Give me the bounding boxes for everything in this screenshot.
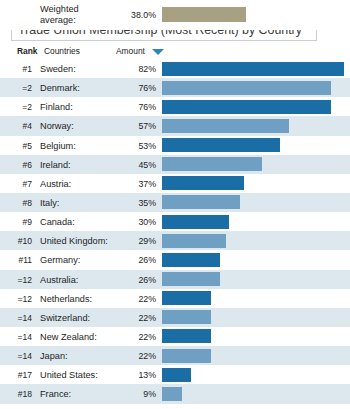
row-amount: 26% [108, 255, 156, 265]
table-row[interactable]: #17United States:13% [0, 365, 350, 384]
row-rank: =14 [6, 313, 32, 323]
table-row[interactable]: =14New Zealand:22% [0, 327, 350, 346]
data-table: #1Sweden:82%=2Denmark:76%=2Finland:76%#4… [0, 59, 350, 404]
row-bar [162, 100, 331, 114]
row-amount: 45% [108, 160, 156, 170]
row-bar [162, 195, 240, 209]
table-row[interactable]: =14Japan:22% [0, 346, 350, 365]
table-row[interactable]: =2Denmark:76% [0, 78, 350, 97]
row-rank: #10 [6, 236, 32, 246]
row-country: Denmark: [40, 83, 80, 93]
row-bar [162, 368, 191, 382]
row-rank: #18 [6, 389, 32, 399]
table-row[interactable]: #8Italy:35% [0, 193, 350, 212]
weighted-average-label-line2: average: [40, 15, 76, 25]
row-rank: #9 [6, 217, 32, 227]
row-rank: #8 [6, 198, 32, 208]
row-bar [162, 387, 182, 401]
row-country: Austria: [40, 179, 71, 189]
row-bar [162, 272, 220, 286]
table-row[interactable]: =2Finland:76% [0, 97, 350, 116]
row-country: Belgium: [40, 141, 76, 151]
column-header-row: Rank Countries Amount [0, 45, 350, 59]
row-amount: 22% [108, 294, 156, 304]
row-rank: =2 [6, 102, 32, 112]
row-bar [162, 310, 211, 324]
table-row[interactable]: #9Canada:30% [0, 212, 350, 231]
row-country: Switzerland: [40, 313, 90, 323]
row-bar [162, 329, 211, 343]
row-bar [162, 62, 344, 76]
row-amount: 37% [108, 179, 156, 189]
row-bar [162, 215, 229, 229]
row-rank: =12 [6, 294, 32, 304]
row-country: Sweden: [40, 64, 76, 74]
row-country: Italy: [40, 198, 59, 208]
row-country: Australia: [40, 275, 78, 285]
row-bar [162, 291, 211, 305]
row-bar [162, 349, 211, 363]
weighted-average-label-line1: Weighted [40, 4, 79, 14]
weighted-average-bar [162, 7, 246, 22]
row-rank: #1 [6, 64, 32, 74]
column-header-amount[interactable]: Amount [116, 46, 145, 56]
row-rank: =2 [6, 83, 32, 93]
table-row[interactable]: =14Switzerland:22% [0, 308, 350, 327]
row-amount: 76% [108, 102, 156, 112]
table-row[interactable]: #18France:9% [0, 384, 350, 403]
row-amount: 22% [108, 332, 156, 342]
row-amount: 53% [108, 141, 156, 151]
row-country: Germany: [40, 255, 80, 265]
row-country: Netherlands: [40, 294, 92, 304]
table-row[interactable]: #7Austria:37% [0, 174, 350, 193]
weighted-average-row: Weighted average: 38.0% [0, 0, 350, 30]
row-rank: #6 [6, 160, 32, 170]
row-amount: 29% [108, 236, 156, 246]
row-rank: #5 [6, 141, 32, 151]
row-country: France: [40, 389, 71, 399]
row-amount: 30% [108, 217, 156, 227]
row-country: Canada: [40, 217, 75, 227]
table-row[interactable]: #4Norway:57% [0, 116, 350, 135]
row-country: Ireland: [40, 160, 71, 170]
row-bar [162, 138, 280, 152]
table-row[interactable]: =12Netherlands:22% [0, 289, 350, 308]
row-amount: 13% [108, 370, 156, 380]
row-country: United States: [40, 370, 98, 380]
row-amount: 9% [108, 389, 156, 399]
row-country: Finland: [40, 102, 73, 112]
row-amount: 57% [108, 121, 156, 131]
table-row[interactable]: #10United Kingdom:29% [0, 231, 350, 250]
table-row[interactable]: #6Ireland:45% [0, 155, 350, 174]
row-country: Japan: [40, 351, 68, 361]
row-amount: 76% [108, 83, 156, 93]
row-rank: =12 [6, 275, 32, 285]
column-header-rank[interactable]: Rank [17, 46, 37, 56]
row-amount: 22% [108, 313, 156, 323]
weighted-average-amount: 38.0% [108, 10, 156, 20]
table-row[interactable]: #11Germany:26% [0, 250, 350, 269]
row-amount: 22% [108, 351, 156, 361]
row-rank: =14 [6, 332, 32, 342]
row-rank: #4 [6, 121, 32, 131]
weighted-average-label: Weighted average: [40, 4, 79, 26]
row-amount: 26% [108, 275, 156, 285]
row-rank: =14 [6, 351, 32, 361]
row-rank: #17 [6, 370, 32, 380]
row-amount: 35% [108, 198, 156, 208]
row-bar [162, 234, 226, 248]
row-country: United Kingdom: [40, 236, 108, 246]
caret-down-icon[interactable] [152, 49, 164, 55]
row-bar [162, 253, 220, 267]
column-header-countries[interactable]: Countries [44, 46, 80, 56]
row-rank: #7 [6, 179, 32, 189]
table-row[interactable]: #5Belgium:53% [0, 136, 350, 155]
table-row[interactable]: =12Australia:26% [0, 270, 350, 289]
row-bar [162, 81, 331, 95]
row-bar [162, 176, 244, 190]
row-bar [162, 157, 262, 171]
row-rank: #11 [6, 255, 32, 265]
row-country: New Zealand: [40, 332, 97, 342]
table-row[interactable]: #1Sweden:82% [0, 59, 350, 78]
row-amount: 82% [108, 64, 156, 74]
